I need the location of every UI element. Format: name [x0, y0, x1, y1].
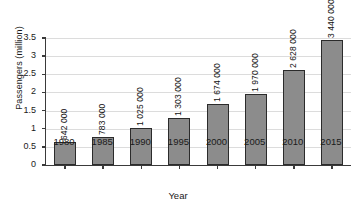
y-axis-tick-mark [42, 128, 46, 129]
bar-value-label: 1 303 000 [173, 77, 183, 116]
bar-value-label: 3 440 000 [326, 0, 336, 38]
x-axis-title: Year [0, 190, 356, 201]
y-axis-tick-label: 0 [0, 159, 36, 169]
gridline [46, 56, 351, 57]
y-axis-tick-label: 3 [0, 50, 36, 60]
x-axis-tick-mark [293, 165, 294, 169]
y-axis-tick-label: 2 [0, 86, 36, 96]
x-axis-tick-mark [102, 165, 103, 169]
gridline [46, 92, 351, 93]
bar: 1 674 000 [207, 104, 229, 165]
bar-value-label: 2 628 000 [288, 29, 298, 68]
x-axis-tick-mark [331, 165, 332, 169]
gridline [46, 74, 351, 75]
gridline [46, 38, 351, 39]
x-axis-tick-mark [141, 165, 142, 169]
y-axis-tick-label: 1.5 [0, 105, 36, 115]
bar-value-label: 783 000 [97, 103, 107, 134]
bar-value-label: 1 025 000 [135, 87, 145, 126]
y-axis-tick-label: 0.5 [0, 141, 36, 151]
y-axis-tick-mark [42, 92, 46, 93]
y-axis-tick-label: 2.5 [0, 68, 36, 78]
bar-value-label: 1 674 000 [212, 64, 222, 103]
bar-value-label: 642 000 [59, 108, 69, 139]
y-axis-tick-mark [42, 74, 46, 75]
bar: 2 628 000 [283, 70, 305, 165]
gridline [46, 129, 351, 130]
x-axis-tick-mark [179, 165, 180, 169]
y-axis-tick-label: 1 [0, 123, 36, 133]
y-axis-tick-mark [42, 55, 46, 56]
gridline [46, 111, 351, 112]
x-axis-tick-mark [217, 165, 218, 169]
x-axis-tick-mark [64, 165, 65, 169]
y-axis-tick-mark [42, 164, 46, 165]
bar-chart: Passengers (million) 642 000783 0001 025… [0, 0, 356, 209]
bar-value-label: 1 970 000 [250, 53, 260, 92]
y-axis-tick-mark [42, 110, 46, 111]
y-axis-tick-label: 3.5 [0, 32, 36, 42]
bar: 1 970 000 [245, 94, 267, 165]
x-axis-tick-label: 2015 [308, 136, 354, 147]
x-axis-tick-mark [255, 165, 256, 169]
y-axis-tick-mark [42, 37, 46, 38]
